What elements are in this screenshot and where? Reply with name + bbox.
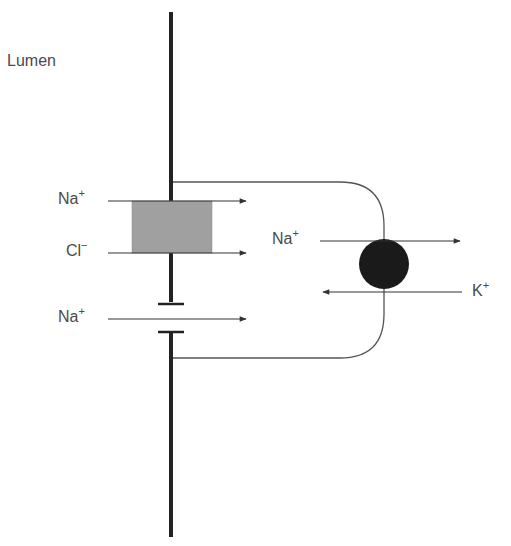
k-pump-label: K+ [472, 282, 489, 300]
na-pump-charge: + [292, 227, 298, 239]
lumen-label: Lumen [7, 52, 56, 70]
na-bottom-charge: + [78, 305, 84, 317]
na-pump-label: Na+ [272, 230, 299, 248]
cl-symbol: Cl [66, 242, 81, 259]
na-top-symbol: Na [58, 190, 78, 207]
k-pump-symbol: K [472, 282, 483, 299]
cl-charge: − [81, 239, 87, 251]
na-top-charge: + [78, 187, 84, 199]
na-top-label: Na+ [58, 190, 85, 208]
diagram-canvas [0, 0, 511, 546]
na-bottom-label: Na+ [58, 308, 85, 326]
na-bottom-symbol: Na [58, 308, 78, 325]
na-pump-symbol: Na [272, 230, 292, 247]
cl-label: Cl− [66, 242, 88, 260]
cotransporter-box [132, 201, 212, 253]
lumen-text: Lumen [7, 52, 56, 69]
na-k-pump [359, 239, 409, 289]
k-pump-charge: + [483, 279, 489, 291]
